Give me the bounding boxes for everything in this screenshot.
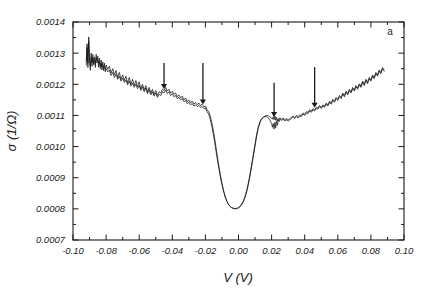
figure-panel-a: -0.10-0.08-0.06-0.04-0.020.000.020.040.0…	[0, 0, 427, 288]
y-axis-title: σ (1/Ω)	[4, 111, 19, 152]
y-tick-label: 0.0012	[36, 79, 66, 90]
annotation-arrows-group	[161, 63, 318, 117]
panel-label: a	[387, 26, 393, 37]
arrow-head	[200, 100, 206, 105]
annotation-arrow-2	[200, 63, 206, 104]
y-tick-label: 0.0008	[36, 203, 66, 214]
arrow-head	[271, 112, 277, 117]
y-tick-label: 0.0010	[36, 141, 66, 152]
y-tick-label: 0.0014	[36, 16, 65, 27]
x-tick-label: 0.02	[262, 245, 281, 256]
data-series-group	[86, 37, 384, 209]
annotation-arrow-3	[271, 83, 277, 117]
x-tick-label: -0.02	[195, 245, 217, 256]
annotation-arrow-1	[161, 63, 167, 89]
arrow-head	[312, 103, 318, 108]
x-tick-label: 0.04	[295, 245, 314, 256]
data-trace-trace-1	[86, 37, 384, 209]
y-tick-label: 0.0009	[36, 172, 66, 183]
x-tick-label: -0.04	[161, 245, 183, 256]
x-tick-label: 0.00	[229, 245, 248, 256]
x-tick-label: -0.10	[62, 245, 84, 256]
x-tick-label: 0.06	[329, 245, 348, 256]
tick-labels-group: -0.10-0.08-0.06-0.04-0.020.000.020.040.0…	[36, 16, 414, 256]
conductance-plot: -0.10-0.08-0.06-0.04-0.020.000.020.040.0…	[0, 0, 427, 288]
x-tick-label: 0.10	[395, 245, 414, 256]
y-tick-label: 0.0011	[37, 110, 65, 121]
annotation-arrow-4	[312, 67, 318, 107]
y-tick-label: 0.0007	[36, 234, 66, 245]
x-tick-label: -0.08	[95, 245, 117, 256]
data-trace-trace-2	[86, 41, 384, 208]
x-tick-label: 0.08	[362, 245, 381, 256]
x-axis-title: V (V)	[223, 270, 253, 285]
y-tick-label: 0.0013	[36, 48, 66, 59]
x-tick-label: -0.06	[128, 245, 150, 256]
